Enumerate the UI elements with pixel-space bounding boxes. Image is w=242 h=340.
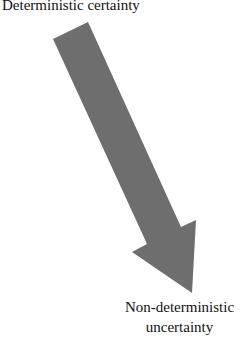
arrow-diagram bbox=[0, 0, 242, 340]
end-label: Non-deterministic uncertainty bbox=[117, 297, 242, 337]
end-label-line1: Non-deterministic bbox=[117, 297, 242, 317]
down-right-arrow-icon bbox=[53, 22, 196, 293]
end-label-line2: uncertainty bbox=[117, 317, 242, 337]
